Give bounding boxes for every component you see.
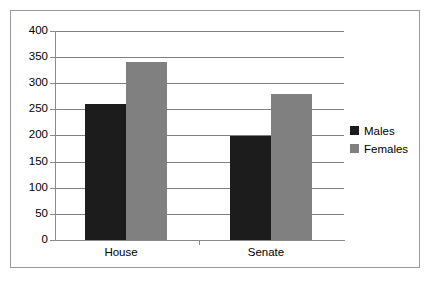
y-tick-label-250: 250 (4, 103, 48, 114)
x-group-divider-tick (199, 241, 200, 245)
y-tick-label-100: 100 (4, 182, 48, 193)
y-tick-mark-0 (50, 240, 55, 241)
y-tick-label-150: 150 (4, 156, 48, 167)
x-tick-label-house: House (86, 246, 156, 258)
x-tick-label-senate: Senate (231, 246, 301, 258)
bar-senate-males[interactable] (230, 136, 271, 241)
legend-item-females[interactable]: Females (350, 141, 416, 156)
bar-house-males[interactable] (85, 104, 126, 240)
chart-legend: Males Females (350, 123, 416, 159)
y-tick-label-200: 200 (4, 129, 48, 140)
x-axis-line (55, 240, 345, 241)
y-tick-label-0: 0 (4, 234, 48, 245)
bar-house-females[interactable] (126, 62, 167, 240)
bar-chart-figure: 400 350 300 250 200 150 100 50 0 House S… (0, 0, 436, 284)
y-axis-tick-labels: 400 350 300 250 200 150 100 50 0 (0, 0, 48, 284)
bars-layer (55, 31, 344, 240)
y-tick-label-350: 350 (4, 51, 48, 62)
legend-label-females: Females (364, 143, 408, 155)
bar-senate-females[interactable] (271, 94, 312, 240)
y-tick-label-400: 400 (4, 25, 48, 36)
legend-item-males[interactable]: Males (350, 123, 416, 138)
legend-swatch-males-icon (350, 126, 359, 135)
y-tick-label-50: 50 (4, 208, 48, 219)
legend-swatch-females-icon (350, 144, 359, 153)
y-tick-label-300: 300 (4, 77, 48, 88)
legend-label-males: Males (364, 125, 395, 137)
